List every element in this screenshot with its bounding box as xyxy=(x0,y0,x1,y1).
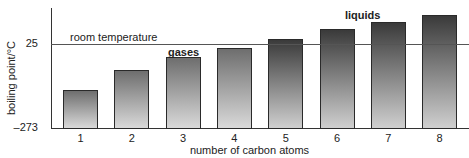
x-tick-5: 5 xyxy=(268,132,303,144)
bar-1 xyxy=(63,90,98,129)
bar-2 xyxy=(114,70,149,129)
boiling-point-chart: boiling point/°C 25 –273 12345678 room t… xyxy=(0,0,469,158)
y-tick-minus-273: –273 xyxy=(4,121,38,133)
x-tick-2: 2 xyxy=(114,132,149,144)
bar-4 xyxy=(217,48,252,129)
x-tick-7: 7 xyxy=(371,132,406,144)
x-tick-8: 8 xyxy=(422,132,457,144)
x-tick-6: 6 xyxy=(320,132,355,144)
bar-8 xyxy=(422,15,457,129)
bar-5 xyxy=(268,39,303,129)
x-tick-1: 1 xyxy=(63,132,98,144)
bar-7 xyxy=(371,22,406,129)
room-temperature-label: room temperature xyxy=(70,31,157,43)
x-axis-label: number of carbon atoms xyxy=(0,144,469,156)
x-tick-3: 3 xyxy=(166,132,201,144)
room-temperature-line xyxy=(51,44,469,45)
bar-3 xyxy=(166,57,201,129)
y-axis xyxy=(51,8,52,129)
x-tick-4: 4 xyxy=(217,132,252,144)
y-tick-25: 25 xyxy=(4,37,38,49)
gases-annotation: gases xyxy=(168,46,199,58)
liquids-annotation: liquids xyxy=(345,9,380,21)
y-axis-label: boiling point/°C xyxy=(5,41,17,115)
